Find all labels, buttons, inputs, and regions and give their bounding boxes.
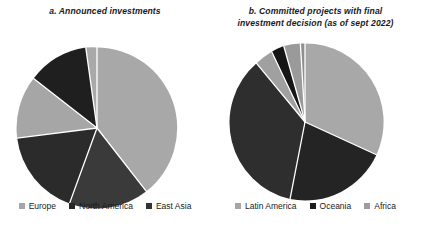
legend-swatch-east-asia-icon bbox=[146, 203, 152, 209]
legend-item-oceania[interactable]: Oceania bbox=[310, 201, 352, 211]
legend-label-east-asia: East Asia bbox=[156, 201, 191, 211]
legend-label-latin-america: Latin America bbox=[245, 201, 297, 211]
legend-item-europe[interactable]: Europe bbox=[19, 201, 56, 211]
pie-chart-b bbox=[224, 41, 386, 203]
pie-a-svg bbox=[14, 45, 180, 211]
panel-b-title: b. Committed projects with final investm… bbox=[210, 6, 421, 29]
legend-swatch-africa-icon bbox=[364, 203, 370, 209]
legend-item-africa[interactable]: Africa bbox=[364, 201, 396, 211]
legend-swatch-north-america-icon bbox=[69, 203, 75, 209]
legend-swatch-europe-icon bbox=[19, 203, 25, 209]
legend-b: Latin America Oceania Africa bbox=[210, 201, 421, 211]
pie-chart-figure: a. Announced investments bbox=[0, 0, 421, 241]
legend-a: Europe North America East Asia bbox=[0, 201, 210, 211]
legend-label-africa: Africa bbox=[374, 201, 396, 211]
pie-chart-a bbox=[14, 45, 180, 211]
legend-item-latin-america[interactable]: Latin America bbox=[235, 201, 297, 211]
legend-swatch-oceania-icon bbox=[310, 203, 316, 209]
legend-label-europe: Europe bbox=[29, 201, 56, 211]
pie-b-svg bbox=[224, 41, 386, 203]
legend-item-north-america[interactable]: North America bbox=[69, 201, 133, 211]
panel-announced-investments: a. Announced investments bbox=[0, 0, 210, 215]
legend-label-north-america: North America bbox=[79, 201, 133, 211]
legend-label-oceania: Oceania bbox=[320, 201, 352, 211]
legend-item-east-asia[interactable]: East Asia bbox=[146, 201, 191, 211]
legend-swatch-latin-america-icon bbox=[235, 203, 241, 209]
pie-b-slices bbox=[230, 43, 384, 200]
panel-committed-projects: b. Committed projects with final investm… bbox=[210, 0, 421, 215]
panel-a-title: a. Announced investments bbox=[0, 6, 210, 18]
